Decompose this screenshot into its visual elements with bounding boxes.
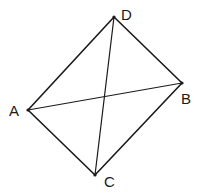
vertex-label-b: B — [181, 90, 191, 107]
side-ad — [28, 17, 114, 110]
side-db — [114, 17, 182, 83]
side-bc — [95, 83, 182, 175]
vertex-d — [112, 15, 115, 18]
vertex-label-a: A — [9, 102, 19, 119]
vertex-label-c: C — [104, 173, 115, 190]
vertex-label-d: D — [121, 6, 132, 23]
quadrilateral-diagram: ABCD — [0, 0, 203, 195]
vertex-a — [26, 108, 29, 111]
vertex-b — [180, 81, 183, 84]
vertex-c — [93, 173, 96, 176]
side-ca — [28, 110, 95, 175]
